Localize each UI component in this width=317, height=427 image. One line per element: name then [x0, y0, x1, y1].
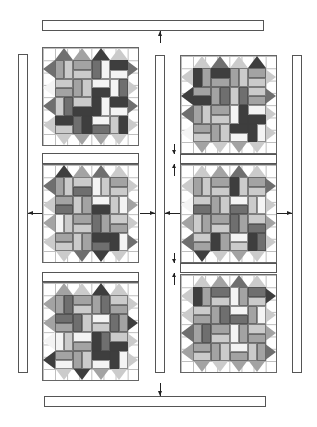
prairie-point-left — [43, 97, 55, 115]
fabric-strip — [230, 68, 239, 87]
prairie-point-top — [193, 56, 211, 68]
prairie-point-top — [73, 165, 91, 177]
rail-fence-unit — [193, 324, 211, 343]
rail-fence-unit — [248, 196, 266, 215]
fabric-strip — [73, 187, 91, 196]
left-border-strip — [18, 54, 28, 373]
rail-fence-unit — [211, 233, 229, 252]
fabric-strip — [239, 87, 248, 106]
fabric-strip — [110, 70, 128, 79]
fabric-strip — [211, 297, 229, 306]
rail-fence-unit — [248, 324, 266, 343]
rail-fence-unit — [193, 287, 211, 306]
prairie-point-bottom — [193, 250, 211, 262]
rail-fence-unit — [230, 306, 248, 325]
rail-fence-unit — [248, 105, 266, 124]
prairie-point-bottom — [110, 133, 128, 145]
fabric-strip — [73, 177, 91, 186]
fabric-strip — [101, 295, 110, 314]
rail-fence-unit — [248, 177, 266, 196]
prairie-point-bottom — [92, 250, 110, 262]
quilt-block-R2 — [180, 164, 277, 263]
fabric-strip — [193, 306, 211, 315]
rail-fence-unit — [230, 177, 248, 196]
quilt-block-R3 — [180, 274, 277, 373]
fabric-strip — [220, 87, 229, 106]
rail-fence-unit — [73, 351, 91, 370]
fabric-strip — [257, 196, 266, 215]
prairie-point-left — [181, 177, 193, 195]
prairie-point-top — [211, 165, 229, 177]
prairie-point-bottom — [110, 250, 128, 262]
fabric-strip — [220, 233, 229, 252]
fabric-strip — [248, 224, 266, 233]
fabric-strip — [73, 224, 91, 233]
fabric-strip — [248, 287, 266, 296]
fabric-strip — [211, 124, 220, 143]
fabric-strip — [110, 214, 128, 223]
prairie-point-left — [181, 68, 193, 86]
fabric-strip — [193, 177, 202, 196]
fabric-strip — [230, 233, 248, 242]
fabric-strip — [55, 233, 73, 242]
prairie-point-bottom — [55, 250, 73, 262]
fabric-strip — [82, 351, 91, 370]
fabric-strip — [193, 196, 211, 205]
rail-fence-unit — [73, 97, 91, 116]
fabric-strip — [248, 233, 257, 252]
rail-fence-unit — [248, 124, 266, 143]
fabric-strip — [248, 124, 257, 143]
fabric-strip — [248, 68, 266, 77]
prairie-point-bottom — [92, 368, 110, 380]
center-sashing-strip — [155, 55, 165, 373]
prairie-point-bottom — [55, 368, 73, 380]
rail-fence-unit — [73, 214, 91, 233]
fabric-strip — [211, 306, 220, 325]
fabric-strip — [82, 79, 91, 98]
fabric-strip — [202, 105, 211, 124]
fabric-strip — [248, 177, 266, 186]
fabric-strip — [211, 233, 220, 252]
prairie-point-bottom — [211, 360, 229, 372]
prairie-point-left — [43, 332, 55, 350]
fabric-strip — [110, 295, 128, 304]
fabric-strip — [64, 97, 73, 116]
rail-fence-unit — [230, 343, 248, 362]
fabric-strip — [82, 116, 91, 135]
prairie-point-bottom — [55, 133, 73, 145]
prairie-point-bottom — [193, 360, 211, 372]
rail-fence-unit — [110, 295, 128, 314]
fabric-strip — [92, 233, 110, 242]
fabric-strip — [230, 196, 248, 205]
fabric-strip — [230, 352, 248, 361]
fabric-strip — [110, 107, 128, 116]
fabric-strip — [73, 351, 82, 370]
fabric-strip — [220, 196, 229, 215]
fabric-strip — [119, 79, 128, 98]
prairie-point-top — [230, 165, 248, 177]
rail-fence-unit — [55, 196, 73, 215]
prairie-point-left — [43, 177, 55, 195]
fabric-strip — [101, 214, 110, 233]
fabric-strip — [193, 87, 211, 96]
rail-fence-unit — [110, 97, 128, 116]
rail-fence-unit — [211, 343, 229, 362]
prairie-point-left — [43, 314, 55, 332]
sashing-strip-R2 — [180, 154, 277, 164]
fabric-strip — [211, 343, 220, 362]
prairie-point-left — [181, 105, 193, 123]
fabric-strip — [55, 242, 73, 251]
fabric-strip — [211, 196, 220, 215]
fabric-strip — [211, 177, 229, 186]
fabric-strip — [110, 351, 119, 370]
fabric-strip — [92, 88, 110, 97]
rail-fence-unit — [92, 214, 110, 233]
fabric-strip — [55, 332, 64, 351]
fabric-strip — [73, 314, 82, 333]
rail-fence-unit — [55, 214, 73, 233]
rail-fence-unit — [193, 68, 211, 87]
fabric-strip — [110, 196, 119, 215]
fabric-strip — [110, 79, 119, 98]
fabric-strip — [202, 68, 211, 87]
fabric-strip — [202, 287, 211, 306]
